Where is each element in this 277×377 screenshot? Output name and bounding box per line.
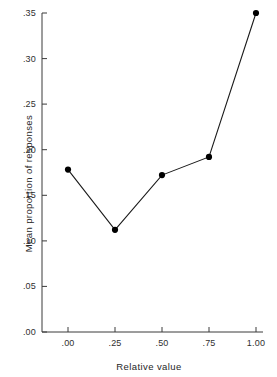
data-point-4 <box>253 10 259 16</box>
line-chart-canvas <box>0 0 277 377</box>
x-axis-title: Relative value <box>42 361 256 372</box>
data-point-2 <box>159 172 165 178</box>
y-tick-label-0: .00 <box>10 327 36 337</box>
chart-figure: .00 .05 .10 .15 .20 .25 .30 .35 .00 .25 … <box>0 0 277 377</box>
data-point-0 <box>65 167 71 173</box>
x-tick-label-1: .25 <box>98 338 132 348</box>
y-tick-label-7: .35 <box>10 8 36 18</box>
y-axis-ticks <box>42 13 47 332</box>
x-tick-label-3: .75 <box>192 338 226 348</box>
x-tick-label-4: 1.00 <box>239 338 273 348</box>
x-axis-ticks <box>68 327 256 332</box>
data-series-line <box>68 13 256 230</box>
data-point-markers <box>65 10 259 233</box>
y-tick-label-6: .30 <box>10 54 36 64</box>
x-tick-label-0: .00 <box>51 338 85 348</box>
x-tick-label-2: .50 <box>145 338 179 348</box>
data-point-1 <box>112 227 118 233</box>
y-axis-title: Mean proportion of responses <box>23 94 34 274</box>
y-tick-label-1: .05 <box>10 281 36 291</box>
data-point-3 <box>206 154 212 160</box>
